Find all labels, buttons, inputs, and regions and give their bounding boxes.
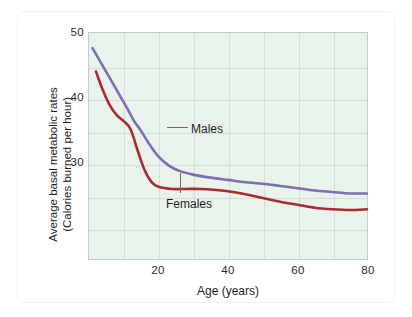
x-tick-80: 80 [353, 264, 383, 276]
y-tick-40: 40 [58, 91, 84, 103]
metabolic-rate-line-chart: Average basal metabolic rates (Calories … [0, 0, 412, 317]
y-axis-title: Average basal metabolic rates (Calories … [22, 30, 56, 260]
series-label-females: Females [166, 197, 212, 211]
males-leader-line [167, 127, 188, 128]
series-label-males: Males [191, 122, 223, 136]
x-tick-40: 40 [213, 264, 243, 276]
y-tick-50: 50 [58, 26, 84, 38]
plot-area [88, 32, 368, 260]
x-axis-tick-labels: 20 40 60 80 [88, 264, 368, 280]
series-line-males [92, 48, 367, 194]
y-axis-tick-labels: 50 40 30 [54, 32, 84, 260]
x-tick-60: 60 [283, 264, 313, 276]
series-line-females [96, 71, 367, 210]
figure-card: Average basal metabolic rates (Calories … [0, 0, 412, 317]
series-curves [89, 33, 367, 259]
y-tick-30: 30 [58, 156, 84, 168]
x-axis-title: Age (years) [88, 284, 368, 298]
females-leader-line [180, 173, 181, 193]
x-tick-20: 20 [143, 264, 173, 276]
